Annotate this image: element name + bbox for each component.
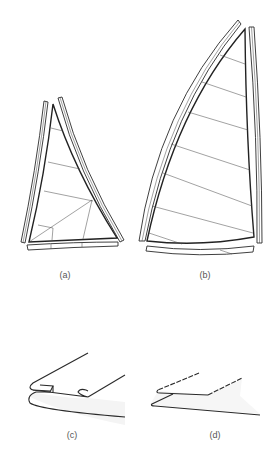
panel-label-c: (c) <box>57 430 87 440</box>
sail-b <box>139 20 262 255</box>
panel-label-a: (a) <box>50 270 80 280</box>
panel-label-b: (b) <box>190 270 220 280</box>
panel-label-d: (d) <box>200 430 230 440</box>
sail-a <box>21 97 124 250</box>
seam-detail-d <box>150 373 260 415</box>
seam-detail-c <box>28 353 125 425</box>
sail-diagram <box>0 0 280 454</box>
